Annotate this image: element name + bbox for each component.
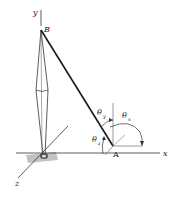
theta-y-arc: [102, 120, 113, 126]
theta-z-label: θ z: [92, 135, 101, 146]
theta-x-label: θ x: [122, 111, 131, 122]
svg-text:θ: θ: [122, 111, 127, 120]
y-axis-label: y: [32, 8, 38, 17]
cable-mast-diagram: y x z B A θ y θ x θ z: [0, 0, 176, 198]
z-axis-label: z: [14, 179, 20, 188]
theta-x-arrowhead: [140, 141, 144, 146]
x-axis-label: x: [163, 149, 168, 158]
point-b-label: B: [43, 25, 50, 34]
svg-text:θ: θ: [97, 108, 102, 117]
cable-ab: [41, 30, 113, 146]
theta-z-arrowhead: [102, 136, 106, 140]
svg-text:z: z: [97, 140, 101, 146]
theta-z-arc: [102, 138, 104, 154]
point-a-label: A: [112, 150, 119, 159]
mast: [36, 30, 48, 155]
svg-text:x: x: [128, 116, 131, 122]
theta-x-arc: [110, 123, 142, 145]
svg-text:y: y: [102, 113, 106, 120]
theta-y-arrowhead: [109, 118, 113, 122]
diagram-canvas: y x z B A θ y θ x θ z: [0, 0, 176, 198]
theta-y-label: θ y: [97, 108, 106, 120]
svg-text:θ: θ: [92, 135, 97, 144]
